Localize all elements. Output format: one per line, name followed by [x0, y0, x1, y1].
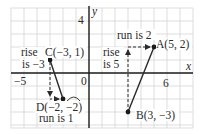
right-rise-label-2: is 5: [103, 58, 120, 70]
y-axis-label: y: [91, 5, 98, 18]
segment-cd: [50, 60, 63, 99]
point-c: [48, 58, 53, 63]
x-tick-neg5: −5: [14, 75, 26, 87]
y-tick-4: 4: [78, 14, 84, 26]
x-tick-6: 6: [163, 77, 169, 89]
left-rise-label-2: is −3: [22, 58, 45, 70]
origin-label: 0: [81, 75, 87, 87]
coordinate-graph: 4 y x −5 0 6 A(5, 2) B(3, −3) C(−3, 1) D…: [0, 0, 205, 134]
right-run-label: run is 2: [117, 29, 152, 41]
right-rise-label-1: rise: [103, 46, 120, 58]
label-b: B(3, −3): [136, 109, 175, 122]
label-c: C(−3, 1): [45, 46, 84, 59]
point-b: [126, 110, 131, 115]
x-axis-label: x: [185, 60, 192, 72]
left-rise-label-1: rise: [21, 46, 38, 58]
left-run-label: run is 1: [39, 112, 74, 124]
label-a: A(5, 2): [156, 38, 189, 51]
